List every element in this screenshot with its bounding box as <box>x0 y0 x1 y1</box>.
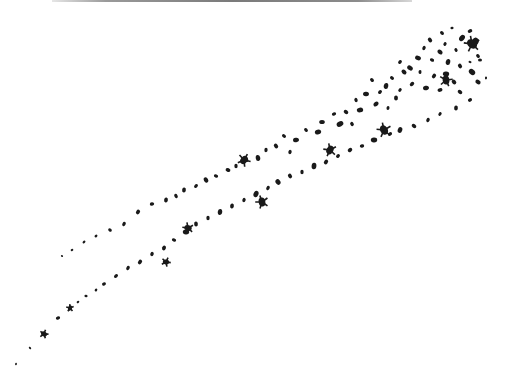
lower-streak-particle <box>411 123 417 129</box>
upper-streak-particle <box>445 59 451 66</box>
upper-streak-particle <box>182 187 186 192</box>
blot-spike <box>464 43 472 44</box>
lower-streak-particle <box>55 316 60 321</box>
lower-streak-particle <box>113 273 118 278</box>
lower-streak-particle <box>371 137 378 142</box>
lower-streak-particle <box>426 117 431 122</box>
upper-streak-particle <box>331 112 336 117</box>
upper-streak-particle <box>273 143 279 149</box>
upper-streak-particle <box>234 164 237 168</box>
blot-spike <box>446 79 453 80</box>
upper-streak-particle <box>121 221 126 226</box>
blot-spike <box>377 129 384 130</box>
upper-streak-particle <box>363 92 369 97</box>
upper-streak-particle <box>303 127 308 132</box>
lower-streak-particle <box>206 216 209 220</box>
lower-streak-particle <box>171 238 176 242</box>
lower-streak-particle <box>287 173 293 179</box>
lower-streak-particle <box>360 144 365 148</box>
upper-streak-particle <box>406 64 413 71</box>
upper-streak-particle <box>288 149 292 154</box>
upper-streak-particle <box>135 209 141 215</box>
upper-streak-particle <box>293 137 300 142</box>
upper-streak-particle <box>150 202 155 206</box>
lower-streak-particle <box>217 209 222 215</box>
upper-streak-particle <box>389 75 394 80</box>
upper-streak-particle <box>468 68 477 77</box>
upper-streak-particle <box>414 55 421 61</box>
lower-streak-particle <box>137 259 143 265</box>
upper-streak-particle <box>422 45 427 50</box>
lower-streak-particle <box>454 105 458 110</box>
upper-streak-particle <box>450 26 454 29</box>
upper-streak-particle <box>61 255 64 258</box>
upper-streak-particle <box>343 109 349 115</box>
lower-streak-particle <box>467 97 472 102</box>
lower-streak-particle <box>311 163 316 170</box>
upper-streak-particle <box>373 101 380 108</box>
upper-streak-particle <box>213 174 218 179</box>
upper-streak-particle <box>319 120 325 124</box>
upper-streak-particle <box>264 148 267 153</box>
particle-streak-illustration <box>0 0 514 381</box>
upper-streak-particle <box>468 61 472 64</box>
upper-streak-particle <box>70 248 73 251</box>
upper-streak-particle <box>386 106 390 110</box>
upper-streak-particle <box>454 48 459 53</box>
upper-streak-particle <box>458 34 466 42</box>
upper-streak-particle <box>356 107 363 113</box>
lower-streak-particle <box>76 300 79 303</box>
lower-streak-particle <box>300 170 303 174</box>
blot-spike <box>187 222 188 228</box>
upper-streak-particle <box>377 89 382 94</box>
lower-streak-particle <box>253 190 260 198</box>
upper-streak-particle <box>94 234 98 238</box>
upper-streak-particle <box>427 37 433 43</box>
upper-streak-particle <box>314 129 322 136</box>
upper-streak-particle <box>354 97 358 102</box>
lower-streak-particle <box>438 112 443 117</box>
upper-streak-particle <box>82 240 86 244</box>
upper-streak-particle <box>108 228 113 233</box>
upper-streak-particle <box>467 28 473 33</box>
upper-streak-particle <box>429 58 434 63</box>
lower-streak-particle <box>347 147 353 153</box>
upper-streak-particle <box>418 70 421 74</box>
upper-streak-particle <box>431 73 437 79</box>
lower-streak-particle <box>161 245 166 251</box>
upper-streak-particle <box>475 53 480 58</box>
upper-streak-particle <box>397 59 402 64</box>
lower-streak-particle <box>274 178 281 185</box>
lower-streak-particle <box>194 221 198 226</box>
lower-streak-particle <box>84 295 88 298</box>
upper-streak-particle <box>457 63 463 69</box>
lower-streak-particle <box>323 159 329 165</box>
lower-streak-particle <box>28 346 31 349</box>
upper-streak-particle <box>437 88 443 93</box>
lower-streak-particle <box>478 59 482 62</box>
upper-streak-particle <box>485 76 487 79</box>
upper-streak-particle <box>401 69 408 76</box>
upper-streak-particle <box>443 42 447 47</box>
blot-spike <box>244 160 245 167</box>
upper-streak-particle <box>164 197 169 203</box>
upper-streak-particle <box>255 155 260 162</box>
lower-streak-particle <box>242 197 246 202</box>
upper-streak-particle <box>225 167 231 173</box>
upper-streak-particle <box>439 30 444 35</box>
upper-streak-particle <box>349 121 354 126</box>
lower-streak-particle <box>335 153 340 158</box>
upper-streak-particle <box>457 89 463 95</box>
upper-streak-particle <box>437 49 444 56</box>
particle-dots <box>15 26 487 365</box>
lower-streak-particle <box>397 126 403 133</box>
upper-streak-particle <box>423 85 430 91</box>
upper-streak-particle <box>203 177 209 184</box>
upper-streak-particle <box>383 83 388 90</box>
upper-streak-particle <box>394 95 398 100</box>
upper-streak-particle <box>475 79 482 86</box>
blot-spike <box>323 149 330 150</box>
upper-streak-particle <box>336 120 345 128</box>
lower-streak-particle <box>15 363 17 366</box>
upper-streak-particle <box>409 81 415 87</box>
